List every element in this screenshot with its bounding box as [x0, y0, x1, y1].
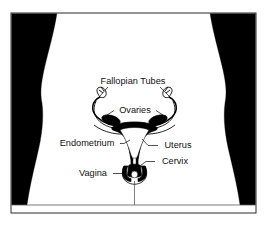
- anatomy-diagram-canvas: Fallopian Tubes Ovaries Endometrium Uter…: [0, 0, 270, 226]
- label-cervix: Cervix: [162, 156, 188, 166]
- anatomy-figure: Fallopian Tubes Ovaries Endometrium Uter…: [0, 0, 270, 226]
- label-vagina: Vagina: [79, 168, 108, 178]
- label-uterus: Uterus: [164, 140, 191, 150]
- label-fallopian-tubes: Fallopian Tubes: [101, 76, 166, 86]
- cervical-os: [131, 171, 137, 178]
- label-ovaries: Ovaries: [119, 105, 151, 115]
- label-endometrium: Endometrium: [60, 138, 115, 148]
